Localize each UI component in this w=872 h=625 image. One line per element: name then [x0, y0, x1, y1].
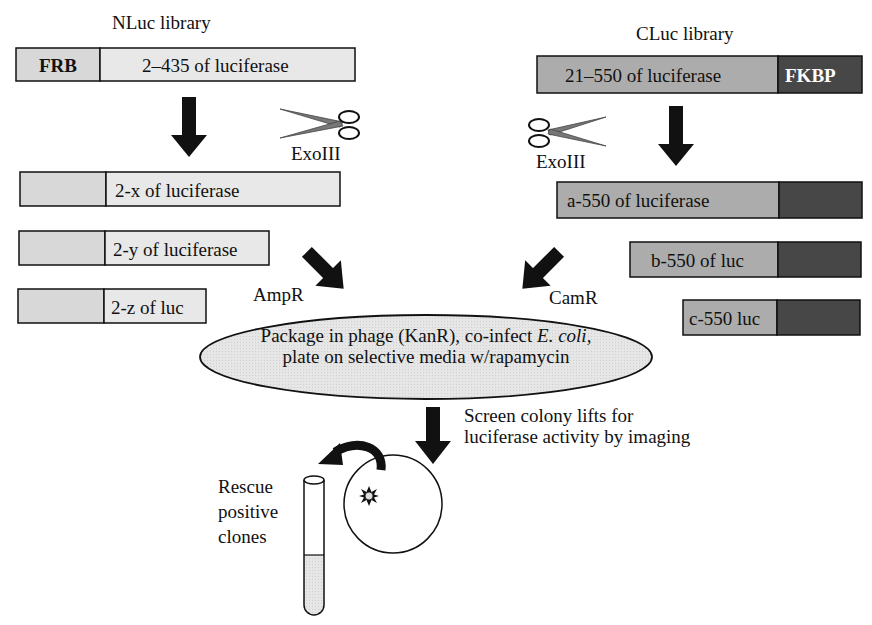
nluc-fragment-z-label: 2-z of luc	[111, 297, 184, 318]
nluc-parent-segment-label: 2–435 of luciferase	[142, 55, 289, 76]
screen-line1: Screen colony lifts for	[464, 405, 633, 426]
nluc-fragment-y-label: 2-y of luciferase	[113, 239, 238, 260]
cluc-fragment-a-label: a-550 of luciferase	[567, 190, 709, 211]
screen-line2: luciferase activity by imaging	[464, 426, 690, 447]
nluc-scissors-icon	[280, 109, 359, 139]
ampr-label: AmpR	[253, 284, 304, 305]
screen-down-arrow-icon	[415, 407, 451, 464]
rescue-line1: Rescue	[218, 476, 273, 497]
nluc-fragment-x-label: 2-x of luciferase	[115, 180, 240, 201]
cluc-fragment-c-label: c-550 luc	[689, 308, 760, 329]
package-line2: plate on selective media w/rapamycin	[283, 346, 570, 367]
package-step-text: Package in phage (KanR), co-infect E. co…	[200, 325, 652, 367]
cluc-scissors-icon	[529, 117, 606, 147]
nluc-exoiii-label: ExoIII	[291, 143, 341, 164]
rescue-line2: positive	[218, 501, 278, 522]
cluc-exoiii-label: ExoIII	[536, 151, 586, 172]
cluc-parent-segment-label: 21–550 of luciferase	[565, 65, 721, 86]
package-line1-prefix: Package in phage (KanR), co-infect	[261, 325, 537, 346]
rescue-line3: clones	[218, 526, 267, 547]
fkbp-label: FKBP	[785, 65, 836, 86]
cluc-library-title: CLuc library	[636, 23, 734, 44]
cluc-fragment-b-label: b-550 of luc	[651, 250, 744, 271]
cluc-down-arrow-icon	[658, 106, 694, 166]
frb-label: FRB	[39, 55, 77, 76]
rescue-step-text: Rescue positive clones	[218, 474, 278, 549]
camr-label: CamR	[549, 287, 598, 308]
petri-plate	[344, 455, 442, 553]
test-tube-icon	[304, 476, 324, 615]
nluc-down-arrow-icon	[171, 97, 207, 157]
package-line1-organism: E. coli,	[537, 325, 591, 346]
nluc-library-title: NLuc library	[112, 12, 211, 33]
screen-step-text: Screen colony lifts for luciferase activ…	[464, 405, 690, 447]
